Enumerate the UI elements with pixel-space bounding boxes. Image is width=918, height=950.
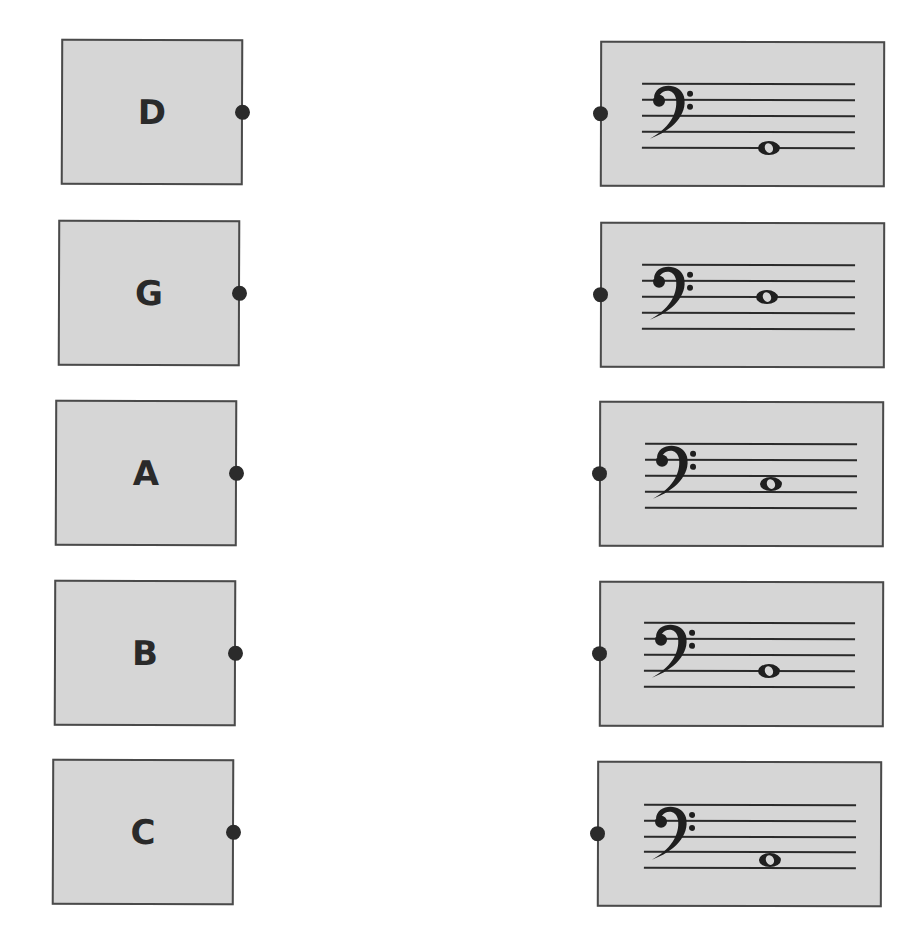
staff-icon (601, 403, 884, 548)
connector-dot[interactable] (590, 826, 605, 841)
staff-icon (602, 224, 885, 369)
connector-dot[interactable] (593, 106, 608, 121)
connector-dot[interactable] (229, 466, 244, 481)
letter-card-4[interactable]: B (54, 580, 237, 727)
connector-dot[interactable] (593, 287, 608, 302)
letter-label: B (56, 633, 234, 674)
letter-card-5[interactable]: C (52, 759, 235, 906)
connector-dot[interactable] (232, 286, 247, 301)
letter-label: G (60, 273, 238, 314)
staff-icon (601, 583, 884, 728)
connector-dot[interactable] (592, 466, 607, 481)
staff-card-2[interactable] (600, 222, 885, 369)
letter-card-2[interactable]: G (58, 220, 241, 367)
letter-label: D (63, 92, 241, 133)
letter-card-1[interactable]: D (61, 39, 244, 186)
letter-card-3[interactable]: A (55, 400, 238, 547)
staff-card-3[interactable] (599, 401, 884, 548)
staff-card-4[interactable] (599, 581, 884, 728)
connector-dot[interactable] (235, 105, 250, 120)
letter-label: C (54, 812, 232, 853)
staff-card-5[interactable] (597, 761, 882, 908)
staff-icon (602, 43, 885, 188)
staff-icon (599, 763, 882, 908)
connector-dot[interactable] (228, 646, 243, 661)
staff-card-1[interactable] (600, 41, 885, 188)
connector-dot[interactable] (592, 646, 607, 661)
letter-label: A (57, 453, 235, 494)
connector-dot[interactable] (226, 825, 241, 840)
